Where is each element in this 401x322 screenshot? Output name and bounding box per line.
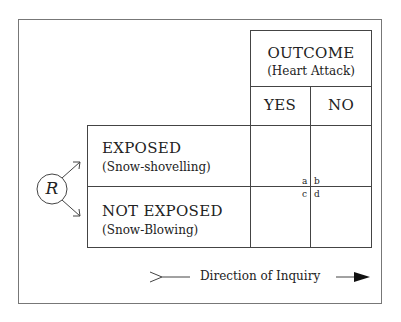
direction-label: Direction of Inquiry bbox=[200, 269, 320, 283]
column-no: NO bbox=[311, 96, 371, 114]
randomization-arrows-icon bbox=[30, 150, 90, 230]
outcome-top-border bbox=[250, 30, 372, 31]
row-exposed-sublabel: (Snow-shovelling) bbox=[102, 160, 211, 174]
arrow-head-icon bbox=[336, 270, 376, 284]
cell-b: b bbox=[314, 176, 320, 186]
outcome-subtitle: (Heart Attack) bbox=[250, 64, 372, 78]
row-divider bbox=[87, 186, 372, 187]
cell-d: d bbox=[314, 189, 320, 199]
table-bottom-border bbox=[87, 247, 372, 248]
row-not-exposed-sublabel: (Snow-Blowing) bbox=[102, 223, 198, 237]
column-label-divider bbox=[250, 125, 372, 126]
cell-a: a bbox=[302, 176, 307, 186]
row-not-exposed-label: NOT EXPOSED bbox=[102, 202, 223, 220]
cell-c: c bbox=[302, 189, 307, 199]
row-exposed-label: EXPOSED bbox=[102, 139, 181, 157]
exposure-top-border bbox=[87, 125, 251, 126]
column-yes: YES bbox=[250, 96, 310, 114]
arrow-tail-icon bbox=[148, 270, 192, 284]
outcome-left-border bbox=[250, 30, 251, 248]
outcome-right-border bbox=[371, 30, 372, 248]
outcome-header-divider bbox=[250, 86, 372, 87]
randomization-symbol: R bbox=[44, 178, 60, 198]
outcome-title: OUTCOME bbox=[250, 44, 372, 62]
